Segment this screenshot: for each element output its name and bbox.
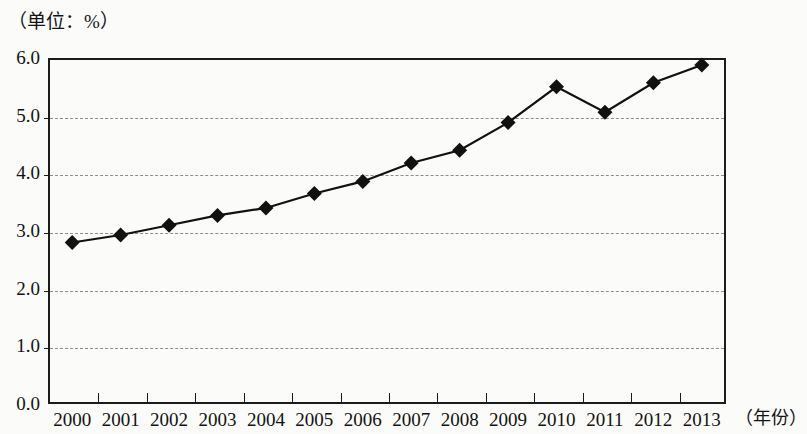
x-axis-tick-label: 2005: [287, 409, 341, 430]
x-axis-tickmark: [195, 393, 196, 402]
x-axis-tickmark: [583, 393, 584, 402]
y-axis-tick-label: 2.0: [0, 279, 40, 298]
x-axis-tick-label: 2002: [142, 409, 196, 430]
y-axis-tick-label: 1.0: [0, 336, 40, 355]
y-axis-tickmark: [44, 348, 50, 349]
x-axis-tickmark: [437, 393, 438, 402]
x-axis-tickmark: [292, 393, 293, 402]
x-axis-tickmark: [98, 393, 99, 402]
x-axis-tick-label: 2006: [336, 409, 390, 430]
x-axis-tickmark: [486, 393, 487, 402]
x-axis-tickmark: [631, 393, 632, 402]
gridline: [50, 233, 724, 234]
x-axis-tickmark: [147, 393, 148, 402]
y-axis-tickmark: [44, 175, 50, 176]
x-axis-tickmark: [534, 393, 535, 402]
gridline: [50, 348, 724, 349]
y-axis-tick-label: 3.0: [0, 221, 40, 240]
x-axis-tick-label: 2009: [481, 409, 535, 430]
x-axis-tick-label: 2003: [191, 409, 245, 430]
x-axis-title: （年份）: [735, 408, 807, 429]
x-axis-tick-label: 2008: [433, 409, 487, 430]
x-axis-tick-label: 2000: [45, 409, 99, 430]
x-axis-tick-label: 2010: [530, 409, 584, 430]
plot-area: [48, 58, 726, 404]
x-axis-tick-label: 2004: [239, 409, 293, 430]
y-axis-tick-label: 6.0: [0, 48, 40, 67]
x-axis-tick-label: 2013: [675, 409, 729, 430]
y-axis-tickmark: [44, 291, 50, 292]
gridline: [50, 291, 724, 292]
y-axis-tick-label: 5.0: [0, 106, 40, 125]
chart-screenshot: （单位：%） 0.01.02.03.04.05.06.0 20002001200…: [0, 0, 807, 434]
x-axis-tickmark: [680, 393, 681, 402]
x-axis-tick-label: 2007: [384, 409, 438, 430]
x-axis-tickmark: [244, 393, 245, 402]
y-axis-tick-label: 0.0: [0, 394, 40, 413]
x-axis-tickmark: [389, 393, 390, 402]
x-axis-tick-label: 2001: [94, 409, 148, 430]
x-axis-tick-label: 2012: [626, 409, 680, 430]
gridline: [50, 175, 724, 176]
y-axis-tickmark: [44, 118, 50, 119]
y-axis-tickmark: [44, 233, 50, 234]
y-axis-tick-label: 4.0: [0, 163, 40, 182]
x-axis-tickmark: [341, 393, 342, 402]
gridline: [50, 118, 724, 119]
unit-caption: （单位：%）: [8, 6, 119, 33]
x-axis-tick-label: 2011: [578, 409, 632, 430]
